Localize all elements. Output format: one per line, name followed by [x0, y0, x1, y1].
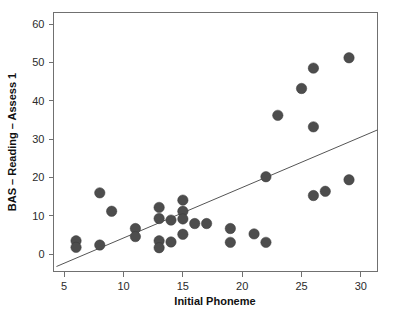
plot-frame: [54, 13, 378, 272]
y-tick-label: 10: [32, 210, 44, 222]
data-point: [225, 237, 235, 247]
data-point: [273, 110, 283, 120]
axes-frame: [54, 13, 378, 272]
y-tick-label: 50: [32, 56, 44, 68]
data-point: [249, 229, 259, 239]
data-point: [261, 237, 271, 247]
y-axis-title: BAS – Reading – Assess 1: [6, 73, 18, 211]
x-axis-title: Initial Phoneme: [174, 295, 255, 307]
x-tick-label: 20: [236, 280, 248, 292]
y-tick-label: 40: [32, 95, 44, 107]
data-point: [178, 195, 188, 205]
y-tick-label: 60: [32, 18, 44, 30]
y-tick-label: 30: [32, 133, 44, 145]
data-point: [308, 122, 318, 132]
x-tick-label: 5: [61, 280, 67, 292]
y-tick-label: 0: [38, 248, 44, 260]
data-point: [178, 229, 188, 239]
x-tick-label: 30: [355, 280, 367, 292]
data-point: [71, 242, 81, 252]
x-tick-label: 15: [177, 280, 189, 292]
data-point: [308, 190, 318, 200]
data-point: [166, 237, 176, 247]
x-tick-label: 10: [117, 280, 129, 292]
data-point: [308, 63, 318, 73]
data-point: [154, 202, 164, 212]
plot-canvas: 51015202530 0102030405060 Initial Phonem…: [0, 0, 393, 323]
data-point: [95, 240, 105, 250]
scatter-plot-figure: 51015202530 0102030405060 Initial Phonem…: [0, 0, 393, 323]
data-point: [225, 223, 235, 233]
x-axis-ticks: 51015202530: [61, 272, 367, 292]
data-point: [344, 175, 354, 185]
y-tick-label: 20: [32, 171, 44, 183]
data-point: [261, 172, 271, 182]
x-tick-label: 25: [295, 280, 307, 292]
data-point: [166, 215, 176, 225]
data-point: [178, 214, 188, 224]
data-point: [130, 231, 140, 241]
data-point: [190, 218, 200, 228]
data-point: [296, 83, 306, 93]
y-axis-ticks: 0102030405060: [32, 18, 53, 260]
data-point: [154, 213, 164, 223]
data-point: [95, 188, 105, 198]
data-point: [344, 53, 354, 63]
data-point: [320, 186, 330, 196]
data-points-group: [71, 53, 354, 253]
data-point: [154, 243, 164, 253]
data-point: [201, 218, 211, 228]
data-point: [106, 206, 116, 216]
